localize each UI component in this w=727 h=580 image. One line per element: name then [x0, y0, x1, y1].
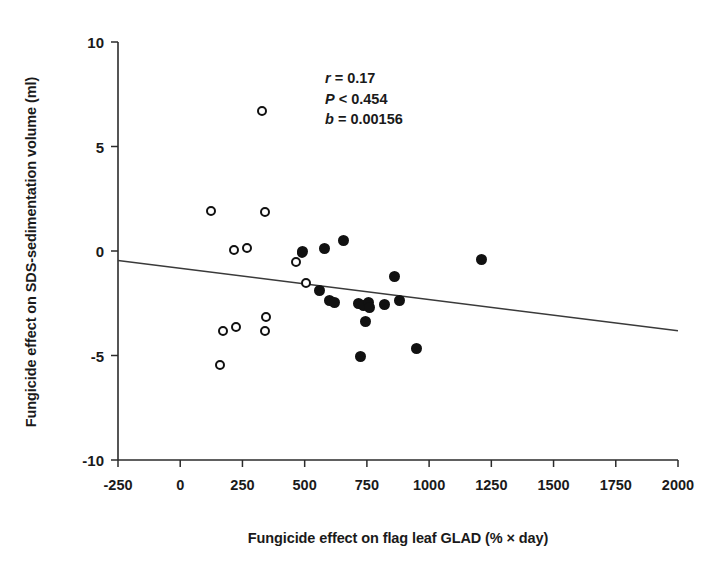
x-axis-title: Fungicide effect on flag leaf GLAD (% × …	[118, 530, 678, 546]
y-axis-title: Fungicide effect on SDS-sedimentation vo…	[14, 32, 48, 472]
data-point-filled-circles	[338, 235, 349, 246]
data-point-filled-circles	[411, 343, 422, 354]
y-tick-label: 5	[58, 140, 104, 155]
x-tick-label: 2000	[643, 478, 713, 493]
stat-value: = 0.17	[331, 70, 376, 86]
x-tick-label: 500	[270, 478, 340, 493]
data-point-filled-circles	[364, 302, 375, 313]
y-tick-label: -10	[58, 453, 104, 468]
data-point-filled-circles	[360, 316, 371, 327]
x-axis-ticks	[118, 460, 678, 467]
x-tick-label: 750	[332, 478, 402, 493]
data-point-open-circles	[261, 312, 271, 322]
data-point-filled-circles	[476, 254, 487, 265]
y-tick-label: 0	[58, 244, 104, 259]
x-tick-label: 0	[145, 478, 215, 493]
data-point-filled-circles	[389, 271, 400, 282]
y-tick-label: 10	[58, 35, 104, 50]
data-point-open-circles	[218, 326, 228, 336]
x-tick-label: 250	[207, 478, 277, 493]
data-point-filled-circles	[297, 246, 308, 257]
stat-value: = 0.00156	[334, 111, 403, 127]
x-tick-label: 1250	[456, 478, 526, 493]
stat-symbol: P	[325, 91, 335, 107]
y-axis-ticks	[111, 42, 118, 460]
data-point-filled-circles	[394, 295, 405, 306]
stat-value: < 0.454	[335, 91, 388, 107]
stat-row: P < 0.454	[325, 89, 403, 110]
stat-row: b = 0.00156	[325, 109, 403, 130]
data-point-filled-circles	[379, 299, 390, 310]
scatter-plot-figure: -10-50510 -25002505007501000125015001750…	[0, 0, 727, 580]
x-tick-label: 1750	[581, 478, 651, 493]
statistics-annotation: r = 0.17P < 0.454b = 0.00156	[325, 68, 403, 130]
x-tick-label: -250	[83, 478, 153, 493]
data-point-filled-circles	[329, 297, 340, 308]
data-point-open-circles	[229, 245, 239, 255]
stat-row: r = 0.17	[325, 68, 403, 89]
y-tick-label: -5	[58, 349, 104, 364]
x-tick-label: 1500	[519, 478, 589, 493]
data-point-open-circles	[215, 360, 225, 370]
stat-symbol: b	[325, 111, 334, 127]
x-tick-label: 1000	[394, 478, 464, 493]
